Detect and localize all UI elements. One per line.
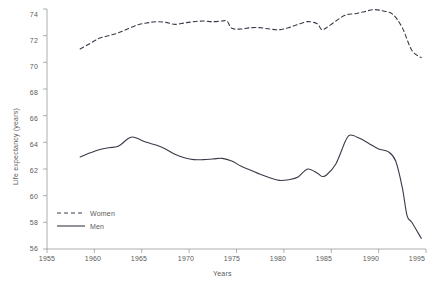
x-axis-ticks bbox=[47, 249, 426, 253]
axis-lines bbox=[47, 9, 426, 249]
legend-marks bbox=[57, 213, 85, 226]
y-axis-ticks bbox=[43, 9, 47, 249]
chart-container: Life expectancy (years) 56 58 60 62 64 6… bbox=[0, 0, 447, 291]
series-line-women bbox=[80, 10, 421, 58]
plot-area bbox=[0, 0, 447, 291]
series-line-men bbox=[80, 135, 421, 238]
data-series-group bbox=[80, 10, 421, 239]
